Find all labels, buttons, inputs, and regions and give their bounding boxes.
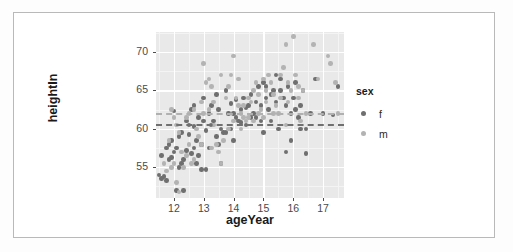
reference-line-f	[156, 124, 344, 126]
data-point-f	[204, 128, 209, 133]
x-axis-title: ageYear	[156, 213, 344, 227]
x-tick-mark	[204, 198, 205, 201]
data-point-f	[187, 132, 192, 137]
data-point-f	[214, 134, 219, 139]
data-point-m	[249, 100, 254, 105]
data-point-m	[216, 150, 221, 155]
gridline-major-y	[156, 52, 344, 53]
data-point-f	[181, 188, 186, 193]
data-point-f	[204, 167, 209, 172]
data-point-m	[179, 150, 184, 155]
data-point-f	[266, 107, 271, 112]
data-point-m	[219, 73, 224, 78]
gridline-minor-x	[219, 32, 220, 198]
legend-dot-icon	[361, 131, 366, 136]
data-point-f	[284, 150, 289, 155]
data-point-f	[256, 84, 261, 89]
data-point-m	[266, 73, 271, 78]
data-point-f	[167, 157, 172, 162]
data-point-f	[196, 153, 201, 158]
data-point-f	[192, 146, 197, 151]
data-point-m	[219, 161, 224, 166]
y-tick-label: 65	[116, 84, 148, 95]
data-point-m	[231, 119, 236, 124]
data-point-f	[254, 100, 259, 105]
data-point-f	[291, 96, 296, 101]
data-point-m	[172, 161, 177, 166]
data-point-m	[326, 54, 331, 59]
data-point-f	[224, 130, 229, 135]
data-point-m	[289, 88, 294, 93]
data-point-f	[298, 103, 303, 108]
data-point-m	[269, 80, 274, 85]
data-point-f	[214, 92, 219, 97]
data-point-m	[207, 107, 212, 112]
data-point-f	[289, 138, 294, 143]
data-point-m	[264, 100, 269, 105]
x-tick-mark	[293, 198, 294, 201]
data-point-f	[201, 119, 206, 124]
data-point-m	[214, 142, 219, 147]
data-point-f	[199, 167, 204, 172]
data-point-f	[298, 127, 303, 132]
y-tick-mark	[153, 167, 156, 168]
y-tick-label: 55	[116, 161, 148, 172]
x-tick-mark	[323, 198, 324, 201]
data-point-m	[246, 96, 251, 101]
data-point-f	[304, 151, 309, 156]
data-point-m	[162, 161, 167, 166]
x-tick-mark	[263, 198, 264, 201]
data-point-m	[177, 190, 182, 195]
reference-line-m	[156, 113, 344, 115]
data-point-m	[241, 103, 246, 108]
data-point-m	[236, 77, 241, 82]
data-point-m	[209, 84, 214, 89]
data-point-f	[172, 150, 177, 155]
data-point-f	[276, 127, 281, 132]
data-point-m	[251, 119, 256, 124]
data-point-f	[216, 107, 221, 112]
data-point-m	[284, 42, 289, 47]
legend-items: fm	[355, 104, 425, 144]
data-point-m	[296, 96, 301, 101]
legend-item-f[interactable]: f	[355, 104, 425, 124]
data-point-m	[261, 77, 266, 82]
data-point-m	[311, 42, 316, 47]
data-point-f	[278, 88, 283, 93]
gridline-major-x	[293, 32, 294, 198]
data-point-m	[194, 127, 199, 132]
data-point-f	[336, 84, 341, 89]
y-axis-title: heightIn	[46, 38, 60, 158]
y-tick-mark	[153, 90, 156, 91]
data-point-m	[251, 88, 256, 93]
data-point-f	[284, 103, 289, 108]
legend-title: sex	[355, 85, 425, 97]
legend-item-m[interactable]: m	[355, 124, 425, 144]
data-point-m	[207, 77, 212, 82]
data-point-f	[159, 153, 164, 158]
data-point-m	[226, 84, 231, 89]
data-point-m	[261, 115, 266, 120]
data-point-m	[298, 119, 303, 124]
y-tick-mark	[153, 52, 156, 53]
gridline-minor-y	[156, 110, 344, 111]
data-point-m	[167, 138, 172, 143]
plot-area: 55606570121314151617 heightIn ageYear se…	[14, 13, 496, 239]
y-tick-label: 60	[116, 123, 148, 134]
gridline-major-y	[156, 129, 344, 130]
gridline-minor-y	[156, 186, 344, 187]
data-point-m	[231, 54, 236, 59]
data-point-m	[199, 100, 204, 105]
x-tick-mark	[234, 198, 235, 201]
data-point-f	[189, 151, 194, 156]
scatter-plot-panel	[156, 32, 344, 198]
legend: sex fm	[355, 85, 425, 144]
data-point-f	[293, 107, 298, 112]
legend-key	[355, 105, 373, 123]
data-point-m	[201, 61, 206, 66]
data-point-f	[164, 146, 169, 151]
data-point-m	[204, 80, 209, 85]
figure-frame: 55606570121314151617 heightIn ageYear se…	[13, 12, 495, 238]
data-point-f	[231, 138, 236, 143]
data-point-m	[281, 65, 286, 70]
